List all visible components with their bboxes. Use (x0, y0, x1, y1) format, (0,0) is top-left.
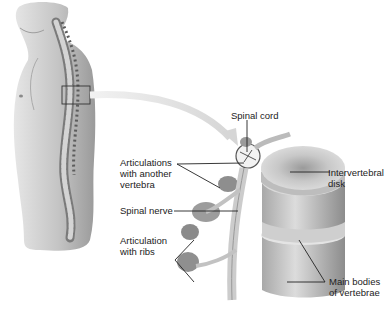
torso-figure (14, 2, 95, 251)
magnify-arrow (90, 95, 230, 138)
label-articulations-with-another-vertebra: Articulations with another vertebra (120, 157, 172, 190)
magnified-vertebrae (177, 134, 345, 300)
diagram-stage: Spinal cord Articulations with another v… (0, 0, 391, 315)
label-articulation-with-ribs: Articulation with ribs (120, 235, 167, 257)
anatomy-artwork (0, 0, 391, 315)
label-spinal-nerve: Spinal nerve (120, 205, 173, 216)
label-spinal-cord: Spinal cord (231, 110, 279, 121)
label-intervertebral-disk: Intervertebral disk (328, 167, 384, 189)
label-main-bodies-of-vertebrae: Main bodies of vertebrae (329, 276, 380, 298)
